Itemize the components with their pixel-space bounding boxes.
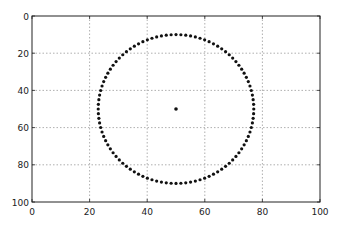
ring-point — [248, 84, 251, 87]
ring-point — [228, 162, 231, 165]
ring-point — [247, 80, 250, 83]
ring-point — [212, 173, 215, 176]
ring-point — [97, 107, 100, 110]
ring-point — [248, 130, 251, 133]
ring-point — [198, 178, 201, 181]
ring-point — [203, 177, 206, 180]
x-tick-label: 60 — [199, 207, 211, 217]
ring-point — [146, 177, 149, 180]
ring-point — [252, 98, 255, 101]
ring-point — [114, 60, 117, 63]
y-tick-label: 0 — [23, 12, 29, 22]
ring-point — [121, 162, 124, 165]
ring-point — [111, 64, 114, 67]
ring-point — [198, 37, 201, 40]
ring-point — [125, 165, 128, 168]
ring-point — [220, 168, 223, 171]
ring-point — [247, 135, 250, 138]
ring-point — [137, 42, 140, 45]
ring-point — [228, 53, 231, 56]
ring-point — [203, 38, 206, 41]
ring-point — [189, 180, 192, 183]
ring-point — [184, 181, 187, 184]
ring-point — [251, 93, 254, 96]
ring-point — [114, 155, 117, 158]
ring-point — [100, 84, 103, 87]
ring-point — [231, 158, 234, 161]
ring-point — [97, 112, 100, 115]
ring-point — [212, 42, 215, 45]
ring-point — [118, 158, 121, 161]
ring-point — [133, 45, 136, 48]
ring-point — [97, 98, 100, 101]
ring-point — [155, 179, 158, 182]
ring-point — [109, 68, 112, 71]
ring-point — [252, 112, 255, 115]
ring-point — [184, 34, 187, 37]
ring-point — [100, 130, 103, 133]
y-tick-label: 80 — [18, 160, 30, 170]
ring-point — [165, 34, 168, 37]
ring-point — [170, 33, 173, 36]
ring-point — [250, 126, 253, 129]
ring-point — [121, 53, 124, 56]
ring-point — [102, 135, 105, 138]
x-tick-label: 0 — [29, 207, 35, 217]
ring-point — [170, 182, 173, 185]
ring-point — [208, 40, 211, 43]
x-axis-ticks: 020406080100 — [29, 16, 329, 217]
ring-point — [179, 33, 182, 36]
series-layer — [97, 33, 256, 185]
ring-point — [189, 34, 192, 37]
ring-point — [141, 40, 144, 43]
ring-point — [104, 139, 107, 142]
ring-point — [208, 175, 211, 178]
ring-point — [99, 89, 102, 92]
ring-point — [252, 103, 255, 106]
ring-point — [99, 126, 102, 129]
ring-point — [194, 179, 197, 182]
ring-point — [102, 80, 105, 83]
ring-point — [216, 170, 219, 173]
ring-point — [245, 76, 248, 79]
ring-point — [155, 35, 158, 38]
center-point — [174, 107, 178, 111]
ring-point — [129, 47, 132, 50]
ring-point — [146, 38, 149, 41]
y-tick-label: 100 — [12, 198, 29, 208]
ring-point — [224, 50, 227, 53]
y-tick-label: 60 — [18, 123, 30, 133]
ring-point — [240, 68, 243, 71]
y-tick-label: 40 — [18, 86, 30, 96]
ring-point — [106, 72, 109, 75]
ring-point — [150, 178, 153, 181]
ring-point — [174, 33, 177, 36]
ring-point — [111, 151, 114, 154]
x-tick-label: 20 — [84, 207, 96, 217]
ring-point — [245, 139, 248, 142]
ring-point — [137, 173, 140, 176]
ring-point — [231, 56, 234, 59]
chart: 020406080100 020406080100 — [0, 0, 339, 228]
ring-point — [179, 182, 182, 185]
ring-point — [98, 93, 101, 96]
ring-point — [252, 117, 255, 120]
ring-point — [251, 121, 254, 124]
y-axis-ticks: 020406080100 — [12, 12, 320, 208]
ring-point — [237, 64, 240, 67]
ring-point — [216, 45, 219, 48]
x-tick-label: 80 — [257, 207, 269, 217]
ring-point — [194, 35, 197, 38]
ring-point — [243, 143, 246, 146]
ring-point — [160, 34, 163, 37]
ring-point — [240, 147, 243, 150]
ring-point — [250, 89, 253, 92]
ring-point — [234, 60, 237, 63]
ring-point — [252, 107, 255, 110]
ring-point — [224, 165, 227, 168]
ring-point — [104, 76, 107, 79]
ring-point — [141, 175, 144, 178]
ring-point — [125, 50, 128, 53]
ring-point — [97, 103, 100, 106]
ring-point — [243, 72, 246, 75]
